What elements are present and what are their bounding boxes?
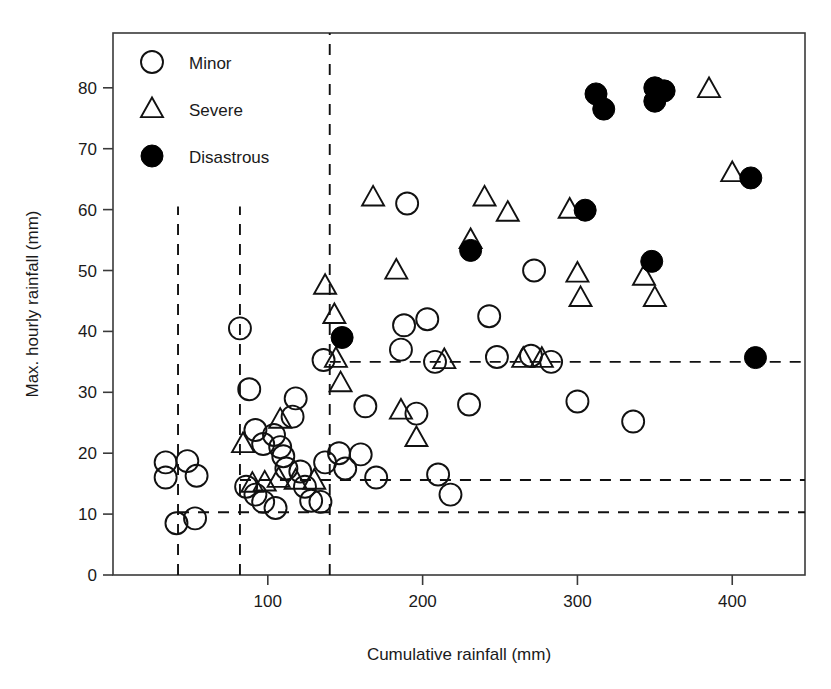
data-point-minor (390, 339, 412, 361)
legend-label-minor: Minor (189, 54, 232, 73)
y-tick-label: 80 (78, 79, 97, 98)
data-point-minor (238, 378, 260, 400)
x-tick-label: 200 (408, 592, 436, 611)
data-point-minor (478, 305, 500, 327)
legend-marker-minor (141, 51, 163, 73)
data-point-minor (396, 193, 418, 215)
reference-lines (178, 33, 805, 575)
y-axis-title: Max. hourly rainfall (mm) (23, 210, 42, 397)
data-point-severe (474, 186, 496, 206)
data-point-severe (323, 303, 345, 323)
data-point-disastrous (460, 239, 482, 261)
data-point-disastrous (744, 347, 766, 369)
data-point-minor (350, 443, 372, 465)
y-tick-label: 50 (78, 262, 97, 281)
data-point-minor (523, 260, 545, 282)
y-tick-label: 60 (78, 201, 97, 220)
y-axis-ticks: 01020304050607080 (78, 79, 113, 585)
series-minor (155, 193, 645, 535)
legend-item-severe: Severe (141, 97, 243, 120)
legend-marker-disastrous (141, 145, 163, 167)
data-point-severe (362, 186, 384, 206)
data-point-minor (334, 457, 356, 479)
x-tick-label: 400 (718, 592, 746, 611)
data-point-minor (393, 314, 415, 336)
y-axis-title-group: Max. hourly rainfall (mm) (23, 210, 42, 397)
data-point-minor (416, 308, 438, 330)
data-point-minor (354, 395, 376, 417)
series-disastrous (331, 77, 766, 369)
scatter-plot-figure: 01020304050607080 100200300400 Max. hour… (0, 0, 831, 689)
data-point-minor (486, 346, 508, 368)
x-axis-title: Cumulative rainfall (mm) (367, 645, 551, 664)
series-severe (232, 77, 743, 491)
x-tick-label: 100 (254, 592, 282, 611)
y-tick-label: 0 (88, 566, 97, 585)
data-point-severe (566, 262, 588, 282)
data-point-severe (405, 426, 427, 446)
data-point-severe (497, 201, 519, 221)
data-point-severe (570, 286, 592, 306)
y-tick-label: 30 (78, 383, 97, 402)
data-point-disastrous (653, 80, 675, 102)
data-point-severe (698, 77, 720, 97)
data-point-severe (232, 433, 254, 453)
data-point-disastrous (574, 199, 596, 221)
data-point-severe (644, 286, 666, 306)
data-point-severe (330, 372, 352, 392)
x-tick-label: 300 (563, 592, 591, 611)
data-point-minor (265, 497, 287, 519)
data-point-minor (427, 464, 449, 486)
x-axis-title-group: Cumulative rainfall (mm) (367, 645, 551, 664)
data-point-minor (235, 476, 257, 498)
data-point-minor (365, 467, 387, 489)
legend-label-disastrous: Disastrous (189, 148, 269, 167)
data-point-severe (314, 274, 336, 294)
data-point-minor (622, 411, 644, 433)
data-points (155, 77, 767, 534)
data-point-disastrous (331, 326, 353, 348)
legend-item-minor: Minor (141, 51, 232, 73)
y-tick-label: 10 (78, 505, 97, 524)
data-point-minor (566, 390, 588, 412)
data-point-disastrous (593, 98, 615, 120)
y-tick-label: 40 (78, 322, 97, 341)
y-tick-label: 20 (78, 444, 97, 463)
chart-legend: MinorSevereDisastrous (141, 51, 269, 167)
data-point-minor (458, 393, 480, 415)
data-point-severe (390, 399, 412, 419)
data-point-disastrous (641, 250, 663, 272)
chart-canvas: 01020304050607080 100200300400 Max. hour… (0, 0, 831, 689)
data-point-severe (385, 259, 407, 279)
data-point-disastrous (740, 167, 762, 189)
data-point-minor (439, 484, 461, 506)
x-axis-ticks: 100200300400 (254, 575, 747, 611)
legend-item-disastrous: Disastrous (141, 145, 269, 167)
y-tick-label: 70 (78, 140, 97, 159)
legend-marker-severe (141, 97, 163, 117)
legend-label-severe: Severe (189, 101, 243, 120)
data-point-minor (155, 467, 177, 489)
